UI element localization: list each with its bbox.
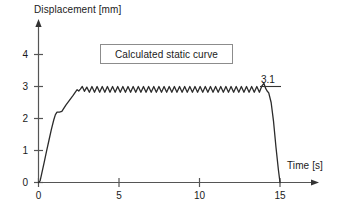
x-tick-label-5: 5 bbox=[109, 190, 129, 201]
peak-value-label: 3.1 bbox=[261, 74, 275, 85]
x-tick-label-10: 10 bbox=[190, 190, 210, 201]
y-axis-title: Displacement [mm] bbox=[34, 4, 121, 15]
legend-box-label: Calculated static curve bbox=[115, 49, 218, 60]
y-tick-label-3: 3 bbox=[14, 81, 28, 92]
displacement-time-chart: Displacement [mm] Time [s] 4 3 2 1 0 0 5… bbox=[0, 0, 341, 213]
y-tick-label-4: 4 bbox=[14, 49, 28, 60]
y-axis-arrowhead bbox=[35, 19, 41, 27]
displacement-curve bbox=[39, 83, 281, 182]
legend-box: Calculated static curve bbox=[100, 44, 233, 64]
x-tick-label-15: 15 bbox=[270, 190, 290, 201]
y-tick-label-1: 1 bbox=[14, 145, 28, 156]
y-tick-label-2: 2 bbox=[14, 113, 28, 124]
x-axis-arrowhead bbox=[311, 179, 319, 185]
x-tick-label-0: 0 bbox=[29, 190, 49, 201]
x-axis-title: Time [s] bbox=[287, 160, 323, 171]
y-tick-label-0: 0 bbox=[14, 177, 28, 188]
plot-area bbox=[0, 0, 341, 213]
